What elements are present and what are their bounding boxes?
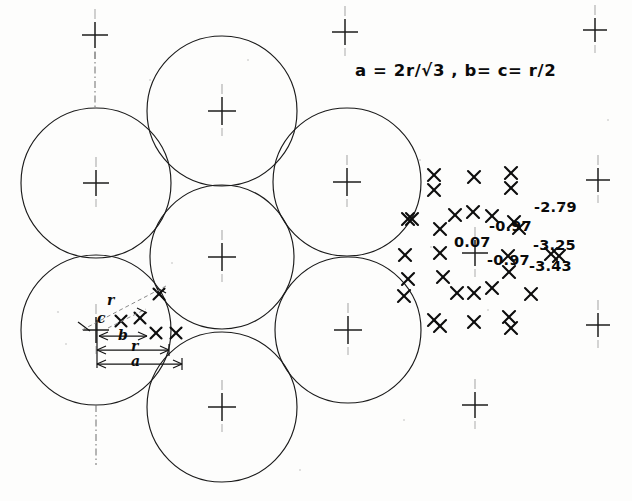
value-top-right: -2.79 <box>534 199 577 215</box>
x-mark <box>449 209 461 221</box>
x-mark <box>468 316 480 328</box>
x-mark <box>434 320 446 332</box>
b-dimension: b <box>118 327 128 343</box>
crosshair-bottom-center <box>208 380 236 432</box>
x-mark <box>399 249 411 261</box>
value-upper-mid: -0.97 <box>489 218 532 234</box>
crosshair-center <box>208 230 236 282</box>
crosshair-bottom-right-stray <box>462 379 488 429</box>
x-mark <box>468 171 480 183</box>
x-mark <box>151 328 162 339</box>
x-mark <box>428 169 440 181</box>
value-center: 0.07 <box>454 234 491 250</box>
circle-packing-group <box>21 36 421 482</box>
value-bottom-right: -3.43 <box>529 258 572 274</box>
x-mark <box>171 328 182 339</box>
crosshair-top-left-stray <box>82 9 108 59</box>
x-mark <box>434 223 446 235</box>
crosshair-upper-right <box>333 155 361 207</box>
value-lower-mid: -0.97 <box>487 252 530 268</box>
x-mark <box>451 287 463 299</box>
x-mark <box>398 290 410 302</box>
x-mark <box>505 167 517 179</box>
crosshair-lower-right <box>334 303 362 355</box>
x-mark <box>486 282 498 294</box>
x-mark <box>402 273 414 285</box>
figure-canvas: a = 2r/√3 , b= c= r/2 rcbra 0.07-0.97-0.… <box>0 0 632 501</box>
crosshair-upper-left <box>83 157 109 207</box>
crosshair-far-top-right <box>583 5 607 53</box>
crosshair-far-right-upper <box>586 155 610 203</box>
crosshair-top-right-stray <box>332 6 358 56</box>
value-mid-right: -3.25 <box>533 237 576 253</box>
x-mark <box>437 271 449 283</box>
drawing-sheet: a = 2r/√3 , b= c= r/2 rcbra 0.07-0.97-0.… <box>0 0 632 501</box>
crosshair-top-center <box>208 84 236 136</box>
r-dimension-lower: r <box>131 338 140 354</box>
x-mark <box>525 288 537 300</box>
packing-formula: a = 2r/√3 , b= c= r/2 <box>355 61 556 80</box>
c-dimension: c <box>97 310 106 326</box>
x-mark <box>467 206 479 218</box>
x-mark <box>428 184 440 196</box>
x-mark <box>434 247 446 259</box>
x-mark <box>505 182 517 194</box>
x-mark <box>505 322 517 334</box>
crosshair-far-right-lower <box>586 300 610 348</box>
x-mark <box>468 287 480 299</box>
r-radius-upper: r <box>107 292 116 308</box>
a-dimension: a <box>131 353 140 369</box>
